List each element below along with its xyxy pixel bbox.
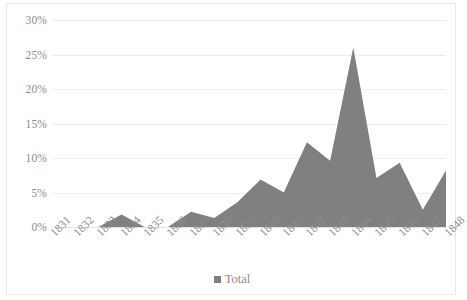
x-axis: 1831183218331834183518361837183818391840… [52,228,446,272]
legend-swatch-icon [214,276,221,283]
y-axis-tick-label: 30% [7,14,47,26]
y-axis-tick-label: 0% [7,221,47,233]
area-series-polygon [52,48,446,227]
y-axis-tick-label: 15% [7,118,47,130]
chart-container: 0%5%10%15%20%25%30% 18311832183318341835… [6,3,456,295]
y-axis-tick-label: 25% [7,49,47,61]
y-axis-tick-label: 5% [7,187,47,199]
legend-label: Total [225,272,251,287]
y-axis: 0%5%10%15%20%25%30% [7,4,52,227]
plot-area [52,20,446,227]
chart-legend: Total [7,272,457,287]
y-axis-tick-label: 10% [7,152,47,164]
area-series-total [52,20,446,227]
legend-entry-total: Total [214,272,251,287]
y-axis-tick-label: 20% [7,83,47,95]
